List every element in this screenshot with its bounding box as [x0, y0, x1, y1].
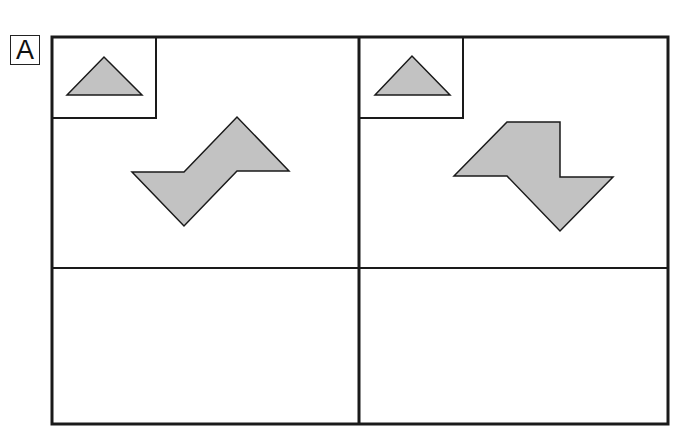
right-s-shape — [454, 122, 613, 231]
left-triangle-icon — [67, 57, 142, 95]
right-answer-area[interactable] — [361, 270, 666, 422]
left-example-box — [52, 37, 156, 118]
left-z-shape — [132, 117, 289, 226]
right-triangle-icon — [375, 56, 450, 95]
left-answer-area[interactable] — [54, 270, 357, 422]
right-example-box — [359, 37, 463, 118]
puzzle-figure — [0, 0, 695, 437]
